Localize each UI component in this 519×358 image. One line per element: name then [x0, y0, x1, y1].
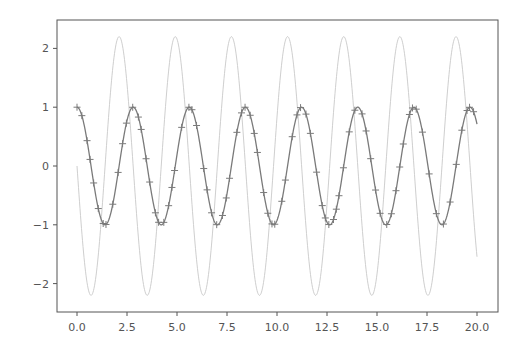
plus-marker: [313, 169, 320, 176]
plus-marker: [247, 112, 254, 119]
x-tick-label: 20.0: [465, 321, 490, 334]
axes-frame: [57, 20, 498, 312]
x-tick-label: 10.0: [265, 321, 290, 334]
plus-marker: [95, 205, 102, 212]
y-tick-label: −1: [33, 219, 49, 232]
plus-marker: [322, 214, 329, 221]
plus-marker: [319, 202, 326, 209]
plus-marker: [406, 111, 413, 118]
plus-marker: [447, 199, 454, 206]
plus-marker: [143, 155, 150, 162]
plus-marker: [168, 184, 175, 191]
plus-marker: [138, 126, 145, 133]
plus-marker: [84, 137, 91, 144]
chart: 0.02.55.07.510.012.515.017.520.0 −2−1012: [0, 0, 519, 358]
y-axis-ticks: −2−1012: [33, 42, 57, 290]
plus-marker: [367, 155, 374, 162]
plus-marker: [233, 129, 240, 136]
plus-marker: [171, 167, 178, 174]
plus-marker: [115, 169, 122, 176]
plus-marker: [293, 111, 300, 118]
plus-marker: [200, 165, 207, 172]
plus-marker: [78, 112, 85, 119]
y-tick-label: 2: [42, 42, 49, 55]
x-tick-label: 0.0: [68, 321, 86, 334]
x-tick-label: 7.5: [218, 321, 236, 334]
plus-marker: [419, 129, 426, 136]
x-tick-label: 15.0: [365, 321, 390, 334]
plus-marker: [458, 127, 465, 134]
plus-marker: [165, 202, 172, 209]
plus-marker: [453, 161, 460, 168]
plus-marker: [251, 130, 258, 137]
plus-marker: [440, 221, 447, 228]
plus-marker: [178, 124, 185, 131]
plus-marker: [226, 175, 233, 182]
plus-marker: [470, 108, 477, 115]
plus-marker: [260, 189, 267, 196]
plus-marker: [238, 109, 245, 116]
plus-marker: [119, 140, 126, 147]
plus-marker: [278, 198, 285, 205]
x-tick-label: 17.5: [415, 321, 440, 334]
plus-marker: [123, 120, 130, 127]
plus-marker: [282, 177, 289, 184]
plus-marker: [146, 179, 153, 186]
x-tick-label: 2.5: [118, 321, 136, 334]
plus-marker: [87, 156, 94, 163]
plus-marker: [254, 149, 261, 156]
y-tick-label: 1: [42, 101, 49, 114]
plus-marker: [388, 210, 395, 217]
plus-marker: [330, 216, 337, 223]
plus-marker: [289, 133, 296, 140]
plus-marker: [340, 164, 347, 171]
plus-marker: [359, 110, 366, 117]
plus-marker: [302, 111, 309, 118]
plus-marker: [392, 187, 399, 194]
plus-marker: [193, 122, 200, 129]
plus-marker: [223, 194, 230, 201]
plus-marker: [335, 192, 342, 199]
plus-marker: [363, 127, 370, 134]
light-sine-series: [77, 37, 477, 296]
plus-marker: [219, 212, 226, 219]
y-tick-label: −2: [33, 278, 49, 291]
plus-marker: [346, 128, 353, 135]
x-tick-label: 12.5: [315, 321, 340, 334]
x-axis-ticks: 0.02.55.07.510.012.515.017.520.0: [68, 312, 489, 334]
plus-marker: [109, 201, 116, 208]
plus-marker: [90, 179, 97, 186]
plus-marker: [135, 114, 142, 121]
y-tick-label: 0: [42, 160, 49, 173]
x-tick-label: 5.0: [168, 321, 186, 334]
plus-marker: [307, 130, 314, 137]
plus-marker: [333, 206, 340, 213]
plus-marker: [400, 140, 407, 147]
plus-marker: [204, 186, 211, 193]
plus-marker: [372, 187, 379, 194]
plus-marker: [396, 164, 403, 171]
plus-marker: [426, 170, 433, 177]
